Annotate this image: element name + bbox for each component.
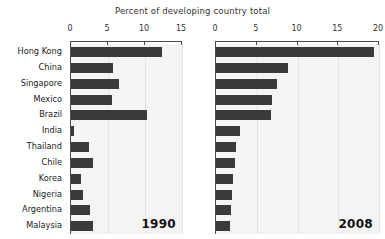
axis-tick-label: 0 [67, 24, 72, 33]
year-label-2008: 2008 [338, 217, 373, 231]
bar [71, 110, 147, 120]
category-label: Hong Kong [17, 44, 62, 60]
axis-tick-label: 10 [139, 24, 149, 33]
category-label: Argentina [22, 202, 62, 218]
category-label: Thailand [27, 139, 62, 155]
category-label: Chile [42, 155, 63, 171]
panel-1990: 1990 051015 [70, 0, 182, 239]
plot-area-1990 [70, 44, 182, 234]
gridline [379, 44, 380, 234]
figure: Percent of developing country total Hong… [0, 0, 385, 239]
category-label: China [39, 60, 62, 76]
bar [216, 142, 236, 152]
axis-tick [181, 41, 182, 45]
category-label: Nigeria [33, 187, 62, 203]
category-label: Malaysia [26, 218, 62, 234]
axis-tick [297, 41, 298, 45]
bar [71, 95, 112, 105]
bar [71, 158, 93, 168]
axis-tick-label: 5 [104, 24, 109, 33]
axis-tick-label: 15 [332, 24, 342, 33]
bar [71, 63, 113, 73]
bar [216, 63, 288, 73]
bar [216, 47, 374, 57]
axis-tick [215, 41, 216, 45]
axis-tick-label: 10 [291, 24, 301, 33]
bar [216, 110, 271, 120]
bar [71, 174, 81, 184]
axis-tick [70, 41, 71, 45]
category-label: Mexico [33, 92, 62, 108]
bar [71, 126, 74, 136]
bar [216, 205, 231, 215]
category-label: Korea [39, 171, 62, 187]
axis-tick [337, 41, 338, 45]
axis-tick-label: 0 [212, 24, 217, 33]
bar [71, 205, 90, 215]
category-axis-labels: Hong KongChinaSingaporeMexicoBrazilIndia… [0, 44, 66, 234]
axis-tick [107, 41, 108, 45]
bar [216, 158, 235, 168]
category-label: India [42, 123, 62, 139]
axis-tick-label: 5 [253, 24, 258, 33]
bar [71, 47, 162, 57]
gridline [298, 44, 299, 234]
bar [216, 174, 233, 184]
axis-tick-label: 20 [373, 24, 383, 33]
axis-tick [378, 41, 379, 45]
bar [71, 142, 89, 152]
bar [71, 221, 93, 231]
plot-area-2008 [215, 44, 379, 234]
bar [216, 126, 240, 136]
bar [216, 190, 232, 200]
value-axis-1990 [70, 41, 181, 42]
bar [71, 190, 83, 200]
bar [216, 221, 230, 231]
year-label-1990: 1990 [141, 217, 176, 231]
panel-2008: 2008 05101520 [215, 0, 379, 239]
category-label: Brazil [39, 107, 62, 123]
gridline [182, 44, 183, 234]
category-label: Singapore [21, 76, 62, 92]
axis-tick [256, 41, 257, 45]
bar [216, 79, 277, 89]
axis-tick-label: 15 [176, 24, 186, 33]
bar [71, 79, 119, 89]
gridline [145, 44, 146, 234]
axis-tick [144, 41, 145, 45]
bar [216, 95, 272, 105]
gridline [338, 44, 339, 234]
